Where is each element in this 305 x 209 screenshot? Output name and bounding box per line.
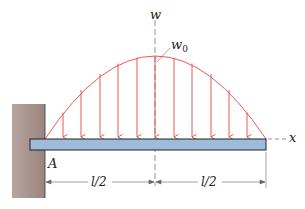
w0-label: w0 [171,38,188,54]
load-curve [45,56,266,139]
support-a-label: A [48,157,57,170]
beam [30,139,266,150]
w0-label-sub: 0 [182,44,188,54]
x-axis-label: x [289,131,296,144]
diagram-canvas: w x w0 A l/2 l/2 [0,0,305,209]
fixed-wall-support [12,104,45,198]
beam-diagram [0,0,305,209]
w0-label-main: w [171,37,182,52]
dim-right-label: l/2 [201,176,217,188]
w-axis-label: w [150,8,161,21]
w0-leader [157,48,170,62]
dimension-lines [46,180,265,184]
dim-left-label: l/2 [91,176,107,188]
load-arrows [63,56,247,137]
